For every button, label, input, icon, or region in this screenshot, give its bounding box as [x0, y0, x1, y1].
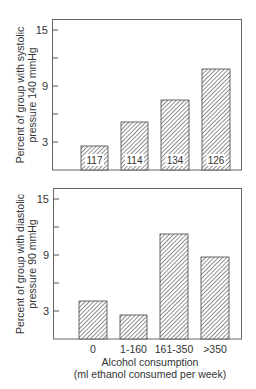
systolic-chart: 15 9 3 Percent of group with systolic pr…: [14, 20, 242, 171]
bar-0: [79, 301, 107, 339]
svg-text:Percent of group with systolic: Percent of group with systolic: [14, 27, 26, 164]
svg-text:(ml ethanol consumed per week): (ml ethanol consumed per week): [74, 368, 226, 380]
y-tick-label: 9: [42, 80, 48, 92]
bar-161-350: [160, 234, 188, 339]
n-label: 134: [167, 155, 184, 166]
svg-text:Percent of group with diastoli: Percent of group with diastolic: [14, 194, 26, 334]
n-label: 117: [87, 155, 103, 166]
x-axis-label: Alcohol consumption (ml ethanol consumed…: [74, 356, 226, 380]
svg-text:Alcohol consumption: Alcohol consumption: [102, 356, 199, 368]
x-tick-labels: 0 1-160 161-350 >350: [90, 343, 227, 355]
svg-text:pressure 90 mmHg: pressure 90 mmHg: [26, 219, 38, 308]
y-tick-label: 3: [43, 305, 49, 317]
bar-1-160: [120, 315, 147, 339]
y-axis-label: Percent of group with diastolic pressure…: [14, 194, 38, 334]
y-tick-label: 3: [42, 136, 48, 148]
x-tick-label: 161-350: [155, 343, 194, 355]
y-tick-label: 15: [37, 193, 49, 205]
x-tick-label: 0: [90, 343, 96, 355]
y-tick-label: 15: [36, 24, 48, 36]
figure: 15 9 3 Percent of group with systolic pr…: [0, 0, 256, 389]
bars: [79, 234, 229, 339]
bar-gt-350: [201, 257, 229, 339]
y-axis-label: Percent of group with systolic pressure …: [14, 27, 38, 164]
n-label: 114: [127, 155, 143, 166]
n-label: 126: [208, 155, 225, 166]
diastolic-chart: 15 9 3 Percent of group with diastolic p…: [14, 189, 242, 381]
y-tick-label: 9: [43, 249, 49, 261]
x-tick-label: >350: [203, 343, 227, 355]
x-tick-label: 1-160: [120, 343, 147, 355]
svg-text:pressure 140 mmHg: pressure 140 mmHg: [26, 47, 38, 142]
